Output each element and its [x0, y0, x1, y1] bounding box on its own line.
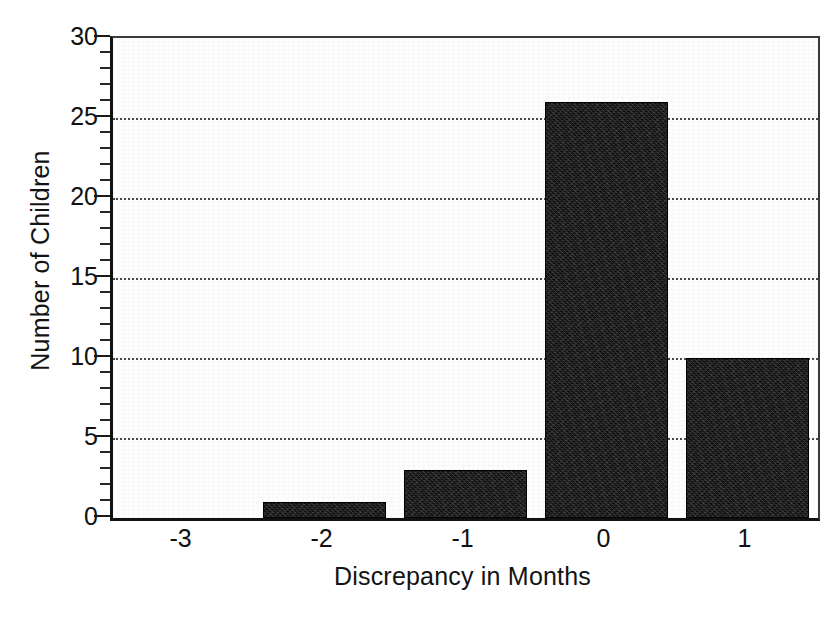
- y-tick-minor: [100, 419, 110, 421]
- y-tick-minor: [100, 387, 110, 389]
- x-tick-label: -1: [418, 524, 508, 553]
- y-tick-minor: [100, 259, 110, 261]
- y-tick-minor: [100, 163, 110, 165]
- y-tick-label: 15: [48, 262, 98, 291]
- y-tick-label: 20: [48, 182, 98, 211]
- y-tick-minor: [100, 451, 110, 453]
- x-tick-label: -2: [277, 524, 367, 553]
- y-tick-minor: [100, 227, 110, 229]
- y-tick-minor: [100, 179, 110, 181]
- y-tick-minor: [100, 499, 110, 501]
- y-tick-minor: [100, 99, 110, 101]
- y-tick-label: 30: [48, 22, 98, 51]
- x-axis-tick-labels: -3-2-101: [0, 524, 839, 558]
- y-tick-minor: [100, 403, 110, 405]
- y-tick-label: 5: [48, 422, 98, 451]
- x-tick-label: -3: [136, 524, 226, 553]
- y-tick-minor: [100, 307, 110, 309]
- bar-series: [113, 38, 818, 518]
- y-tick-minor: [100, 467, 110, 469]
- y-tick-minor: [100, 211, 110, 213]
- x-axis-title: Discrepancy in Months: [110, 562, 815, 591]
- bar-chart-figure: Number of Children 051015202530 -3-2-101…: [0, 0, 839, 617]
- y-tick-minor: [100, 483, 110, 485]
- y-tick-label: 10: [48, 342, 98, 371]
- x-tick-label: 0: [559, 524, 649, 553]
- bar: [545, 102, 668, 518]
- y-tick-minor: [100, 83, 110, 85]
- y-tick-minor: [100, 51, 110, 53]
- y-tick-minor: [100, 339, 110, 341]
- y-tick-minor: [100, 131, 110, 133]
- y-tick-minor: [100, 323, 110, 325]
- bar: [263, 502, 386, 518]
- y-tick-label: 25: [48, 102, 98, 131]
- y-tick-minor: [100, 243, 110, 245]
- y-tick-minor: [100, 67, 110, 69]
- plot-area: [110, 36, 820, 521]
- y-tick-minor: [100, 371, 110, 373]
- x-tick-label: 1: [700, 524, 790, 553]
- y-tick-minor: [100, 291, 110, 293]
- y-tick-minor: [100, 147, 110, 149]
- bar: [404, 470, 527, 518]
- bar: [686, 358, 809, 518]
